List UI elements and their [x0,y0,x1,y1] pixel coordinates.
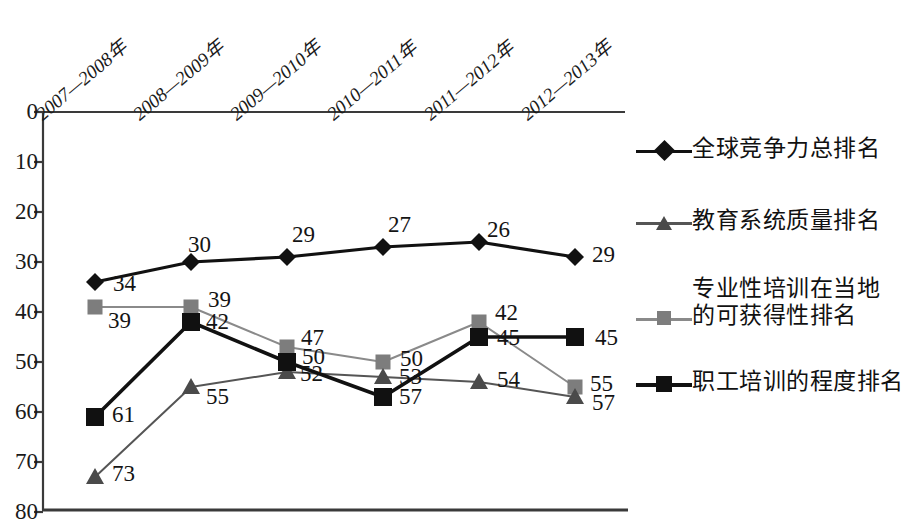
y-tick-label: 20 [0,200,38,223]
y-tick-label: 50 [0,350,38,373]
legend-item-education-quality[interactable]: 教育系统质量排名 [636,208,904,236]
y-tick-label: 10 [0,150,38,173]
data-point-label: 54 [497,368,520,391]
data-point-label: 29 [592,243,615,266]
legend-label: 专业性培训在当地 的可获得性排名 [692,276,880,329]
square-marker-icon [636,306,692,332]
legend-label-line1: 专业性培训在当地 [692,276,880,301]
data-point-label: 53 [399,365,422,388]
data-point-label: 30 [188,233,211,256]
data-point-label: 55 [206,385,229,408]
legend-item-overall-competitiveness[interactable]: 全球竞争力总排名 [636,136,904,164]
y-tick-label: 70 [0,450,38,473]
chart-container: 0 10 20 30 40 50 60 70 80 2007—2008年 200… [0,0,908,520]
square-marker-icon [636,371,692,397]
y-tick-label: 80 [0,500,38,520]
legend-item-training-availability[interactable]: 专业性培训在当地 的可获得性排名 [636,276,904,332]
data-point-label: 57 [592,391,615,414]
data-point-label: 42 [495,301,518,324]
data-point-label: 61 [112,403,135,426]
triangle-marker-icon [636,210,692,236]
data-point-label: 29 [292,223,315,246]
y-tick-label: 60 [0,400,38,423]
data-point-label: 52 [300,362,323,385]
data-point-label: 39 [208,288,231,311]
legend-label: 职工培训的程度排名 [692,369,904,396]
data-point-label: 39 [108,309,131,332]
y-tick-label: 40 [0,300,38,323]
data-point-label: 45 [595,326,618,349]
chart-legend: 全球竞争力总排名 教育系统质量排名 专业性培训在当地 的可获得性排名 [636,136,904,400]
y-tick-label: 30 [0,250,38,273]
data-point-label: 45 [497,326,520,349]
legend-item-staff-training-extent[interactable]: 职工培训的程度排名 [636,369,904,397]
data-point-label: 42 [206,310,229,333]
diamond-marker-icon [636,138,692,164]
legend-label-line2: 的可获得性排名 [692,303,857,328]
legend-label: 全球竞争力总排名 [692,136,880,163]
legend-label: 教育系统质量排名 [692,208,880,235]
data-point-label: 73 [112,462,135,485]
data-point-label: 34 [113,272,136,295]
data-point-label: 27 [388,213,411,236]
data-point-label: 26 [487,218,510,241]
